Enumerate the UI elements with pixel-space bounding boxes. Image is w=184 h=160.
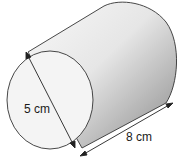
- length-label: 8 cm: [126, 130, 152, 144]
- cylinder-drawing: [0, 0, 184, 160]
- diameter-label: 5 cm: [24, 102, 50, 116]
- cylinder-diagram: 5 cm 8 cm: [0, 0, 184, 160]
